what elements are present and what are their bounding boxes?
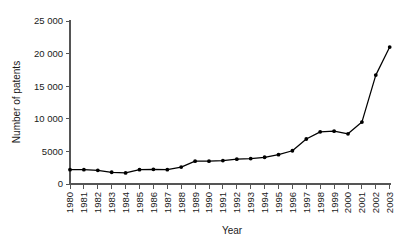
data-point <box>152 167 156 171</box>
data-point <box>235 157 239 161</box>
y-axis-tick-label: 0 <box>58 178 63 189</box>
data-point <box>277 153 281 157</box>
y-axis-tick-label: 15 000 <box>34 81 63 92</box>
data-point <box>110 170 114 174</box>
data-point <box>193 159 197 163</box>
y-axis: 0500010 00015 00020 00025 000 <box>34 15 70 189</box>
x-axis-tick-label: 1981 <box>78 192 89 213</box>
x-axis-tick-label: 1997 <box>301 192 312 213</box>
x-axis-tick-label: 1990 <box>203 192 214 213</box>
x-axis-tick-label: 1994 <box>259 192 270 213</box>
x-axis-tick-label: 1984 <box>120 192 131 213</box>
data-point <box>179 165 183 169</box>
x-axis-tick-label: 1988 <box>176 192 187 213</box>
data-point <box>249 157 253 161</box>
data-point <box>207 159 211 163</box>
x-axis-tick-label: 1996 <box>287 192 298 213</box>
data-point <box>221 159 225 163</box>
x-axis-tick-label: 1985 <box>134 192 145 213</box>
x-axis-tick-label: 1983 <box>106 192 117 213</box>
data-point <box>332 129 336 133</box>
data-point <box>165 168 169 172</box>
data-point <box>82 168 86 172</box>
data-point <box>124 171 128 175</box>
x-axis-tick-label: 1999 <box>329 192 340 213</box>
x-axis-tick-label: 1987 <box>162 192 173 213</box>
x-axis-tick-label: 2002 <box>370 192 381 213</box>
x-axis-tick-label: 1986 <box>148 192 159 213</box>
x-axis-tick-label: 1980 <box>64 192 75 213</box>
x-axis-tick-label: 1993 <box>245 192 256 213</box>
data-point <box>318 130 322 134</box>
y-axis-tick-label: 5000 <box>42 146 63 157</box>
x-axis-tick-label: 2001 <box>356 192 367 213</box>
data-series-number-of-patents <box>68 45 392 175</box>
y-axis-tick-label: 10 000 <box>34 113 63 124</box>
x-axis-title: Year <box>222 225 243 236</box>
x-axis-tick-label: 1982 <box>92 192 103 213</box>
x-axis-tick-label: 1992 <box>231 192 242 213</box>
y-axis-tick-label: 20 000 <box>34 48 63 59</box>
chart-canvas: 0500010 00015 00020 00025 000 1980198119… <box>0 0 410 241</box>
patents-line-chart: 0500010 00015 00020 00025 000 1980198119… <box>0 0 410 241</box>
data-point <box>388 45 392 49</box>
x-axis-tick-label: 1995 <box>273 192 284 213</box>
y-axis-title: Number of patents <box>11 61 22 143</box>
data-point <box>346 132 350 136</box>
data-point <box>374 73 378 77</box>
x-axis-tick-label: 2003 <box>384 192 395 213</box>
x-axis-tick-label: 1989 <box>190 192 201 213</box>
x-axis-tick-label: 2000 <box>342 192 353 213</box>
data-point <box>291 149 295 153</box>
series-polyline <box>70 47 390 173</box>
data-point <box>96 168 100 172</box>
data-point <box>68 168 72 172</box>
y-axis-tick-label: 25 000 <box>34 15 63 26</box>
x-axis-tick-label: 1991 <box>217 192 228 213</box>
data-point <box>263 155 267 159</box>
data-point <box>304 137 308 141</box>
data-point <box>138 168 142 172</box>
x-axis-tick-label: 1998 <box>315 192 326 213</box>
data-point <box>360 120 364 124</box>
x-axis: 1980198119821983198419851986198719881989… <box>64 184 395 213</box>
